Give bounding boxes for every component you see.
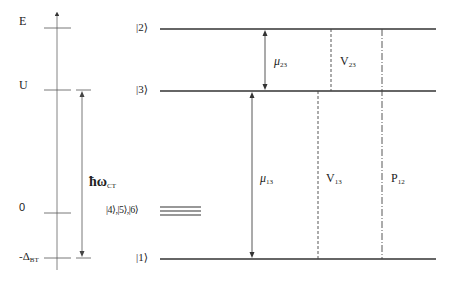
mu23-label: μ23 [274, 55, 287, 69]
mu13-arrow [250, 92, 255, 258]
delta-subscript: BT [30, 256, 39, 264]
v13-symbol: V [326, 171, 335, 185]
level-2-label: |2⟩ [136, 22, 148, 33]
p12-subscript: 12 [398, 178, 405, 186]
energy-diagram-canvas [0, 0, 458, 281]
mu23-arrow [263, 30, 268, 90]
v23-subscript: 23 [349, 61, 356, 69]
mu13-subscript: 13 [266, 178, 273, 186]
level-1-label: |1⟩ [136, 252, 148, 263]
mu23-subscript: 23 [280, 61, 287, 69]
axis-label-U: U [19, 79, 28, 91]
hbar-omega: ħω [89, 174, 107, 189]
v23-symbol: V [340, 54, 349, 68]
axis-label-E: E [19, 15, 26, 27]
axis-label-delta-bt: -ΔBT [19, 251, 39, 264]
level-3-label: |3⟩ [136, 84, 148, 95]
delta-symbol: -Δ [19, 250, 30, 262]
p12-symbol: P [391, 171, 398, 185]
charge-transfer-arrow [80, 91, 85, 257]
v13-label: V13 [326, 172, 342, 186]
mu13-label: μ13 [260, 172, 273, 186]
axis-label-zero: 0 [19, 202, 25, 213]
p12-label: P12 [391, 172, 405, 186]
level-456-label: |4⟩,|5⟩,|6⟩ [106, 205, 138, 215]
v23-label: V23 [340, 55, 356, 69]
charge-transfer-label: ħωCT [89, 175, 116, 190]
energy-levels [160, 29, 436, 259]
v13-subscript: 13 [335, 178, 342, 186]
ct-subscript: CT [107, 182, 116, 190]
energy-axis [44, 14, 91, 270]
